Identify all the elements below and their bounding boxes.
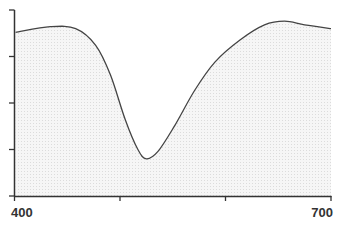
y-axis-ticks bbox=[9, 10, 15, 196]
spectrum-chart: 400 700 bbox=[0, 0, 342, 230]
x-tick-label-max: 700 bbox=[311, 205, 333, 220]
x-tick-label-min: 400 bbox=[11, 205, 33, 220]
area-fill bbox=[16, 21, 331, 196]
